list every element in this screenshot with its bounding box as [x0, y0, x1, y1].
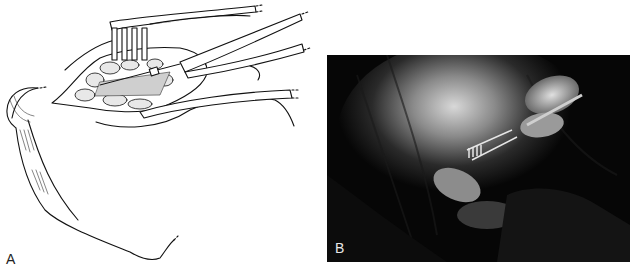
intraoperative-photo: [327, 55, 630, 262]
panel-label-b: B: [335, 241, 344, 255]
panel-label-a: A: [6, 252, 15, 266]
rake-retractor: [110, 5, 262, 60]
figure-panel-a: A: [0, 0, 320, 272]
figure-panel-b: B: [327, 55, 630, 262]
surgical-illustration: [0, 0, 320, 272]
